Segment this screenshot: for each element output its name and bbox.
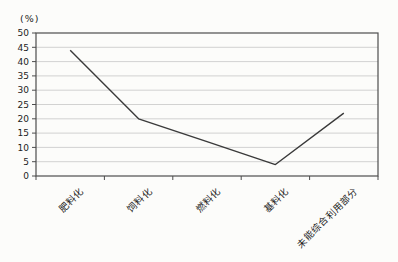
x-axis-category-label: 饲料化	[125, 186, 154, 215]
y-axis-tick-label: 45	[18, 43, 29, 53]
line-chart: (%) 05101520253035404550肥料化饲料化燃料化基料化未能综合…	[0, 0, 398, 262]
y-axis-unit-label: (%)	[20, 13, 39, 24]
x-axis-category-label: 未能综合利用部分	[295, 186, 359, 250]
y-axis-tick-label: 40	[18, 57, 30, 67]
y-axis-tick-label: 25	[18, 100, 29, 110]
y-axis-tick-label: 10	[18, 143, 30, 153]
y-axis-tick-label: 30	[18, 85, 30, 95]
y-axis-tick-label: 5	[23, 157, 29, 167]
y-axis-tick-label: 20	[18, 114, 30, 124]
chart-page: (%) 05101520253035404550肥料化饲料化燃料化基料化未能综合…	[0, 0, 398, 262]
chart-canvas: 05101520253035404550肥料化饲料化燃料化基料化未能综合利用部分	[0, 0, 398, 262]
x-axis-category-label: 肥料化	[57, 186, 86, 215]
y-axis-tick-label: 50	[18, 28, 30, 38]
x-axis-category-label: 基料化	[262, 186, 291, 215]
y-axis-tick-label: 35	[18, 71, 29, 81]
y-axis-tick-label: 0	[23, 171, 29, 181]
x-axis-category-label: 燃料化	[193, 186, 222, 215]
y-axis-tick-label: 15	[18, 128, 29, 138]
